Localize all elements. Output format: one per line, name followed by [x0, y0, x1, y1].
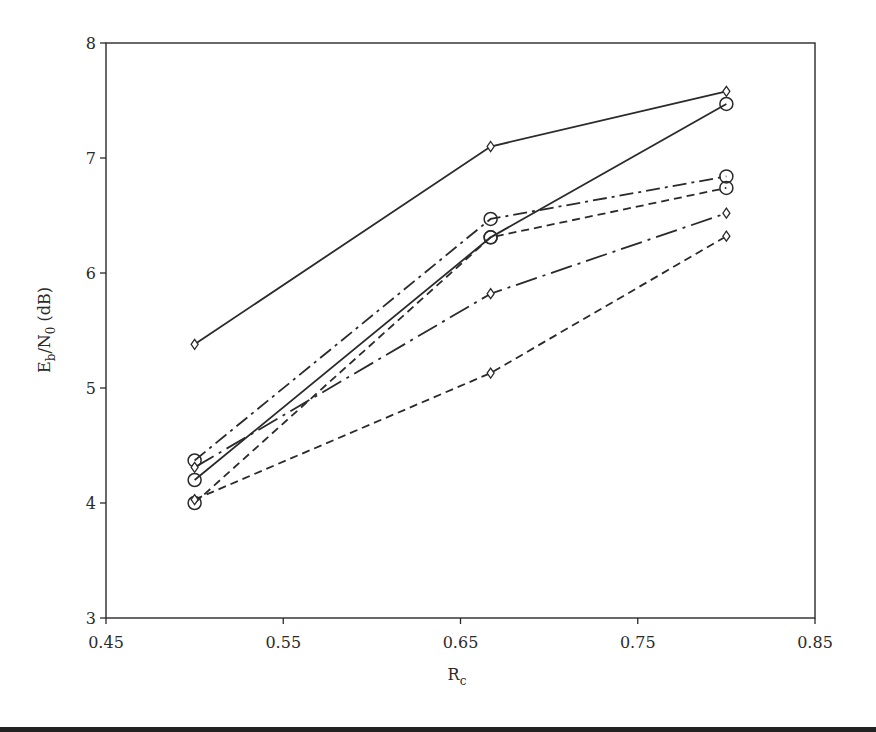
series-dashed-circle: [188, 181, 733, 509]
diamond-marker-icon: [191, 495, 198, 505]
y-tick-label: 6: [86, 264, 96, 283]
series-solid-diamond: [191, 86, 730, 349]
y-tick-label: 5: [86, 379, 96, 398]
diamond-marker-icon: [487, 289, 494, 299]
y-tick-label: 4: [86, 494, 96, 513]
series-line: [195, 188, 727, 503]
x-axis-label: Rc: [448, 665, 467, 688]
series-line: [195, 213, 727, 467]
y-axis-label: Eb/N0 (dB): [35, 287, 58, 373]
x-tick-label: 0.55: [265, 633, 301, 652]
series-layer: [188, 86, 733, 509]
y-tick-label: 7: [86, 149, 96, 168]
series-line: [195, 91, 727, 344]
x-tick-label: 0.65: [443, 633, 479, 652]
diamond-marker-icon: [723, 208, 730, 218]
diamond-marker-icon: [723, 231, 730, 241]
x-tick-label: 0.85: [797, 633, 833, 652]
plot-frame: [106, 43, 815, 618]
bottom-rule: [0, 727, 876, 732]
diamond-marker-icon: [487, 368, 494, 378]
y-tick-label: 8: [86, 34, 96, 53]
series-solid-circle: [188, 97, 733, 486]
series-dashed-diamond: [191, 231, 730, 504]
series-line: [195, 176, 727, 460]
diamond-marker-icon: [191, 462, 198, 472]
y-tick-label: 3: [86, 609, 96, 628]
diamond-marker-icon: [723, 86, 730, 96]
diamond-marker-icon: [191, 339, 198, 349]
plot-border: [106, 43, 815, 618]
x-tick-label: 0.45: [88, 633, 124, 652]
x-tick-label: 0.75: [620, 633, 656, 652]
diamond-marker-icon: [487, 142, 494, 152]
line-chart: 3456780.450.550.650.750.85 Rc Eb/N0 (dB): [0, 0, 876, 732]
series-line: [195, 236, 727, 499]
